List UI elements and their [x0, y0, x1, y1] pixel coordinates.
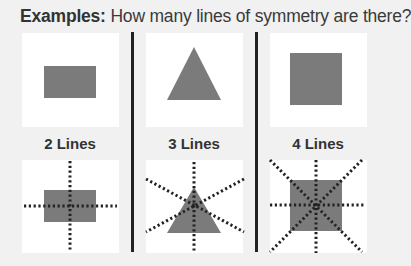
rectangle-symmetry-lines	[22, 160, 119, 253]
column-divider-2	[255, 32, 258, 252]
triangle-symmetry-lines	[146, 160, 243, 253]
square-symmetry-lines	[270, 160, 367, 253]
title-bold: Examples:	[20, 6, 106, 26]
square-shape-box	[270, 33, 367, 127]
rectangle-shape	[22, 33, 119, 127]
example-label-1: 2 Lines	[20, 135, 120, 152]
square-shape	[270, 33, 367, 127]
triangle-shape	[146, 33, 243, 127]
page-title: Examples: How many lines of symmetry are…	[20, 6, 411, 27]
rectangle-symmetry-box	[22, 160, 119, 253]
example-label-2: 3 Lines	[144, 135, 244, 152]
rectangle-shape-box	[22, 33, 119, 127]
square-symmetry-box	[270, 160, 367, 253]
example-label-3: 4 Lines	[268, 135, 368, 152]
triangle-symmetry-box	[146, 160, 243, 253]
title-question: How many lines of symmetry are there?	[106, 6, 411, 26]
column-divider-1	[131, 32, 134, 252]
triangle-shape-box	[146, 33, 243, 127]
